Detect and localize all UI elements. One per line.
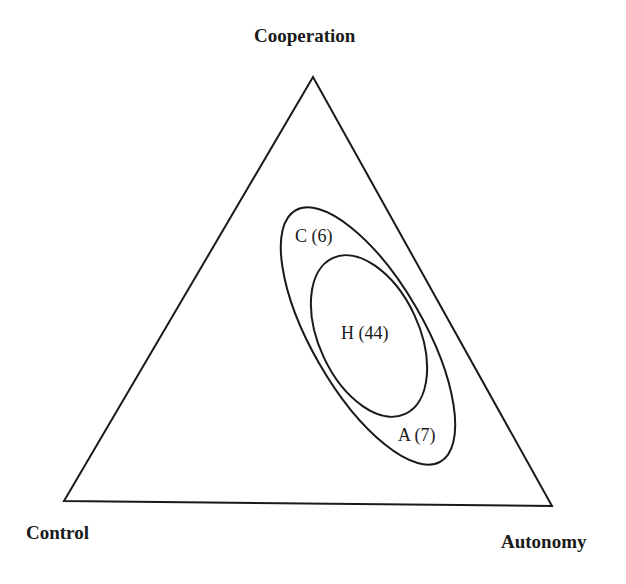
vertex-label-cooperation: Cooperation	[254, 25, 355, 47]
group-label-h: H (44)	[341, 323, 389, 344]
group-label-c: C (6)	[295, 226, 333, 247]
triangle	[64, 77, 552, 506]
vertex-label-autonomy: Autonomy	[501, 531, 587, 553]
vertex-label-control: Control	[26, 522, 89, 544]
diagram-canvas	[0, 0, 626, 584]
group-label-a: A (7)	[398, 425, 436, 446]
